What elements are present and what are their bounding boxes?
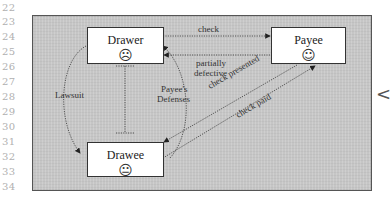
- node-drawer-label: Drawer: [88, 34, 163, 47]
- neutral-face-icon: 😐: [88, 162, 163, 178]
- node-drawer: Drawer ☹: [87, 27, 164, 64]
- label-check: check: [198, 24, 219, 34]
- frowning-face-icon: ☹: [88, 47, 163, 63]
- label-lawsuit: Lawsuit: [55, 90, 84, 100]
- label-defenses: Defenses: [157, 94, 190, 104]
- side-marker: <: [376, 85, 391, 103]
- node-payee: Payee ☺: [271, 27, 346, 64]
- node-drawee-label: Drawee: [88, 149, 163, 162]
- node-payee-label: Payee: [272, 34, 345, 47]
- node-drawee: Drawee 😐: [87, 142, 164, 177]
- label-payees: Payee's: [161, 84, 188, 94]
- smiling-face-icon: ☺: [272, 47, 345, 63]
- label-partially: partially: [196, 58, 226, 68]
